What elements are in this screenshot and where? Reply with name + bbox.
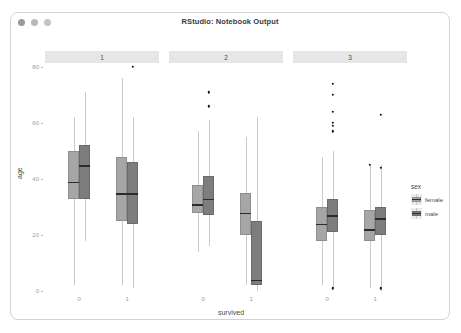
legend-key-male-icon <box>411 208 422 219</box>
y-tick-label: 0 <box>36 288 39 294</box>
boxplot-box <box>375 207 386 235</box>
facet-strip-label: 3 <box>348 54 352 61</box>
facet-panel-3 <box>293 67 407 291</box>
x-tick-label: 1 <box>249 296 252 302</box>
boxplot-box <box>68 151 79 199</box>
facet-strip-2: 2 <box>169 51 283 63</box>
y-axis-label: age <box>16 167 23 179</box>
facet-strip-1: 1 <box>45 51 159 63</box>
facet-panel-2 <box>169 67 283 291</box>
y-tick-mark <box>41 67 43 68</box>
y-tick-mark <box>41 123 43 124</box>
y-tick-label: 80 <box>32 64 39 70</box>
boxplot-box <box>116 157 127 221</box>
legend-label-male: male <box>425 211 438 217</box>
facet-strip-label: 1 <box>100 54 104 61</box>
boxplot-whisker <box>74 117 75 285</box>
y-tick-mark <box>41 291 43 292</box>
y-tick-mark <box>41 235 43 236</box>
x-tick-label: 0 <box>78 296 81 302</box>
legend-title: sex <box>411 183 450 190</box>
window-title: RStudio: Notebook Output <box>11 17 449 26</box>
x-tick-label: 1 <box>125 296 128 302</box>
boxplot-median <box>116 193 127 195</box>
y-tick-label: 20 <box>32 232 39 238</box>
boxplot-median <box>79 165 90 167</box>
boxplot-box <box>79 145 90 198</box>
ggplot-boxplot-figure: age survived 020406080 101201301 sex fem… <box>11 33 450 320</box>
boxplot-box <box>364 210 375 241</box>
legend-item-female[interactable]: female <box>411 194 450 205</box>
x-tick-label: 0 <box>202 296 205 302</box>
rstudio-notebook-window: RStudio: Notebook Output age survived 02… <box>10 12 450 320</box>
legend-key-female-icon <box>411 194 422 205</box>
boxplot-box <box>251 221 262 285</box>
legend: sex female male <box>411 183 450 222</box>
boxplot-median <box>316 224 327 226</box>
boxplot-box <box>203 176 214 215</box>
y-tick-label: 40 <box>32 176 39 182</box>
boxplot-median <box>68 182 79 184</box>
x-axis-label: survived <box>11 309 450 316</box>
boxplot-median <box>364 229 375 231</box>
boxplot-median <box>251 280 262 282</box>
boxplot-box <box>192 185 203 213</box>
y-tick-mark <box>41 179 43 180</box>
boxplot-median <box>127 193 138 195</box>
x-tick-label: 0 <box>326 296 329 302</box>
y-tick-label: 60 <box>32 120 39 126</box>
legend-item-male[interactable]: male <box>411 208 450 219</box>
x-tick-label: 1 <box>373 296 376 302</box>
window-titlebar: RStudio: Notebook Output <box>11 13 449 34</box>
facet-panel-1 <box>45 67 159 291</box>
facet-strip-3: 3 <box>293 51 407 63</box>
boxplot-median <box>203 199 214 201</box>
boxplot-median <box>192 204 203 206</box>
boxplot-median <box>375 218 386 220</box>
facet-strip-label: 2 <box>224 54 228 61</box>
boxplot-median <box>240 213 251 215</box>
legend-label-female: female <box>425 197 443 203</box>
boxplot-median <box>327 215 338 217</box>
